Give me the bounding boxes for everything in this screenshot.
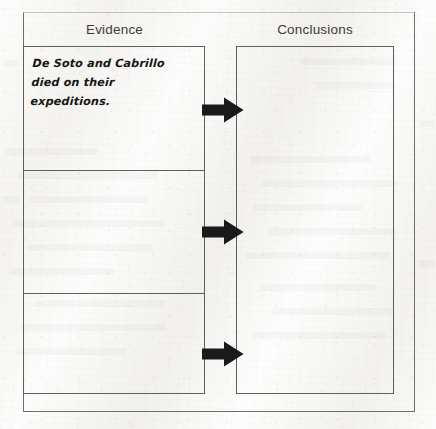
evidence-table: De Soto and Cabrillo died on their exped…	[23, 46, 205, 394]
scan-ghost	[4, 60, 18, 67]
column-heading-conclusions: Conclusions	[236, 22, 394, 37]
evidence-cell-1[interactable]: De Soto and Cabrillo died on their exped…	[24, 47, 204, 171]
evidence-cell-2[interactable]	[24, 171, 204, 294]
arrow-right-icon-row-2	[202, 219, 244, 245]
scan-ghost	[418, 260, 434, 267]
scan-ghost	[2, 196, 20, 203]
conclusions-box[interactable]	[236, 46, 394, 394]
arrow-right-icon-row-3	[202, 341, 244, 367]
column-heading-evidence: Evidence	[23, 22, 206, 37]
arrow-right-icon-row-1	[202, 97, 244, 123]
worksheet-page: Evidence Conclusions De Soto and Cabrill…	[0, 0, 436, 429]
evidence-text-1: De Soto and Cabrillo died on their exped…	[30, 54, 195, 111]
scan-ghost	[420, 120, 434, 127]
evidence-cell-3[interactable]	[24, 294, 204, 393]
